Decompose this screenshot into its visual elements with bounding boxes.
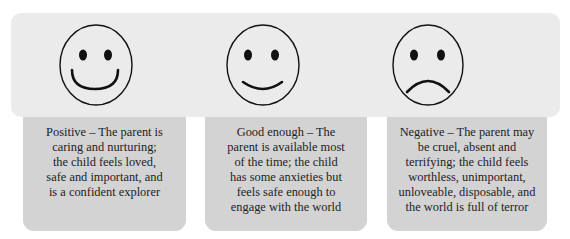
sad-face-icon xyxy=(391,24,467,108)
caption-line: worthless, unimportant, xyxy=(387,170,547,185)
caption-line: Negative – The parent may xyxy=(387,125,547,140)
caption-line: the world is full of terror xyxy=(387,200,547,215)
happy-face-icon xyxy=(58,24,134,108)
slight-smile-face-icon xyxy=(225,24,301,108)
caption-positive: Positive – The parent is caring and nurt… xyxy=(23,117,186,231)
caption-line: safe and important, and xyxy=(23,170,186,185)
caption-good-enough: Good enough – The parent is available mo… xyxy=(205,117,367,231)
caption-line: be cruel, absent and xyxy=(387,140,547,155)
caption-line: caring and nurturing; xyxy=(23,140,186,155)
caption-line: feels safe enough to xyxy=(205,185,367,200)
caption-line: Good enough – The xyxy=(205,125,367,140)
caption-line: parent is available most xyxy=(205,140,367,155)
caption-line: Positive – The parent is xyxy=(23,125,186,140)
caption-line: engage with the world xyxy=(205,200,367,215)
caption-line: the child feels loved, xyxy=(23,155,186,170)
caption-negative: Negative – The parent may be cruel, abse… xyxy=(387,117,547,231)
caption-line: of the time; the child xyxy=(205,155,367,170)
caption-line: terrifying; the child feels xyxy=(387,155,547,170)
caption-line: has some anxieties but xyxy=(205,170,367,185)
caption-line: is a confident explorer xyxy=(23,185,186,200)
caption-line: unloveable, disposable, and xyxy=(387,185,547,200)
